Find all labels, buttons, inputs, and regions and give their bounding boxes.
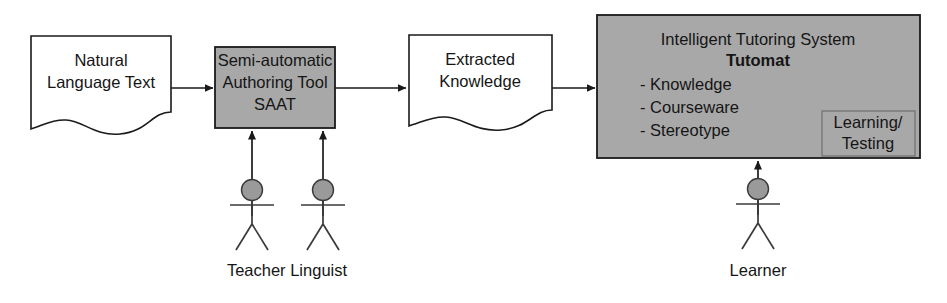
saat-line3: SAAT — [254, 95, 296, 113]
extracted-knowledge-line1: Extracted — [445, 50, 515, 68]
its-subheading: Tutomat — [726, 51, 790, 69]
its-bullet-stereotype: - Stereotype — [640, 121, 730, 139]
actor-linguist — [301, 131, 345, 250]
natural-language-text-line1: Natural — [74, 51, 127, 69]
natural-language-text-line2: Language Text — [47, 73, 155, 91]
actor-teacher — [230, 131, 274, 250]
learning-testing-line2: Testing — [842, 134, 894, 152]
diagram-canvas: Natural Language Text Semi-automatic Aut… — [0, 0, 947, 303]
teacher-leg-left — [236, 224, 252, 250]
teacher-leg-right — [252, 224, 268, 250]
saat-line1: Semi-automatic — [218, 51, 333, 69]
learning-testing-line1: Learning/ — [834, 113, 903, 131]
saat-line2: Authoring Tool — [222, 73, 327, 91]
learner-leg-right — [758, 223, 774, 249]
its-bullet-knowledge: - Knowledge — [640, 75, 732, 93]
learner-head-icon — [748, 179, 769, 200]
node-extracted-knowledge: Extracted Knowledge — [409, 35, 552, 130]
actor-learner — [736, 161, 780, 249]
linguist-leg-right — [323, 224, 339, 250]
node-its: Intelligent Tutoring System Tutomat - Kn… — [597, 15, 920, 158]
label-teacher-linguist: Teacher Linguist — [227, 261, 348, 279]
extracted-knowledge-line2: Knowledge — [439, 72, 521, 90]
linguist-leg-left — [307, 224, 323, 250]
node-natural-language-text: Natural Language Text — [31, 36, 171, 134]
its-bullet-courseware: - Courseware — [640, 98, 739, 116]
workflow-diagram: Natural Language Text Semi-automatic Aut… — [0, 0, 947, 303]
learner-leg-left — [742, 223, 758, 249]
label-learner: Learner — [730, 261, 787, 279]
its-heading: Intelligent Tutoring System — [661, 30, 855, 48]
linguist-head-icon — [313, 180, 334, 201]
teacher-head-icon — [242, 180, 263, 201]
node-saat: Semi-automatic Authoring Tool SAAT — [215, 47, 335, 128]
